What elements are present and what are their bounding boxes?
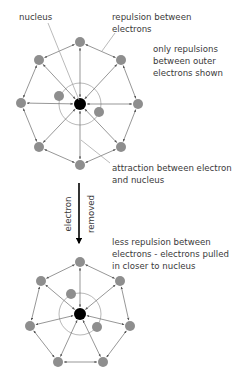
repulsion-arrow	[121, 287, 128, 320]
inner-electron	[94, 107, 104, 117]
nucleus	[74, 308, 86, 320]
outer-electron	[115, 276, 125, 286]
label-nucleus: nucleus	[19, 12, 53, 22]
repulsion-arrow	[85, 265, 114, 279]
label-less-line1: less repulsion between	[112, 237, 211, 247]
attraction-arrow	[36, 316, 73, 325]
outer-electron	[34, 55, 44, 65]
outer-electron	[16, 98, 26, 108]
label-only-line2: between outer	[153, 56, 216, 66]
diagram-after	[25, 257, 135, 367]
repulsion-arrow	[123, 110, 136, 142]
outer-electron	[34, 142, 44, 152]
outer-electron	[75, 160, 85, 170]
repulsion-arrow	[44, 149, 74, 162]
repulsion-arrow	[23, 109, 36, 142]
nucleus-leader-line	[48, 23, 79, 100]
attraction-arrow	[27, 103, 73, 104]
repulsion-leader-line	[102, 33, 115, 51]
repulsion-arrow	[46, 265, 74, 279]
repulsion-arrow	[85, 44, 115, 57]
electron-repulsion-diagram: nucleus repulsion between electrons only…	[0, 0, 242, 372]
label-less-line2: electrons - electrons pulled	[112, 249, 229, 259]
repulsion-arrow	[123, 66, 136, 99]
label-attraction-line2: and nucleus	[112, 175, 165, 185]
repulsion-arrow	[31, 287, 39, 320]
outer-electron	[125, 321, 135, 331]
label-arrow-electron: electron	[63, 196, 73, 231]
inner-electron	[66, 289, 76, 299]
outer-electron	[133, 99, 143, 109]
label-only-line3: electrons shown	[153, 68, 223, 78]
label-repulsion-line2: electrons	[112, 24, 152, 34]
attraction-arrow	[85, 64, 117, 98]
label-repulsion-line1: repulsion between	[112, 12, 191, 22]
repulsion-arrow	[85, 149, 115, 162]
label-less-line3: in closer to nucleus	[112, 261, 196, 271]
repulsion-arrow	[34, 331, 55, 358]
outer-electron	[53, 357, 63, 367]
outer-electron	[75, 257, 85, 267]
outer-electron	[98, 357, 108, 367]
diagram-before	[16, 37, 143, 170]
attraction-arrow	[85, 285, 115, 310]
outer-electron	[75, 37, 85, 47]
attraction-leader-line	[81, 140, 110, 163]
nucleus	[74, 98, 86, 110]
attraction-arrow	[87, 316, 124, 325]
inner-electron	[92, 322, 102, 332]
attraction-arrow	[43, 109, 75, 143]
outer-electron	[25, 321, 35, 331]
repulsion-arrow	[23, 66, 36, 98]
outer-electron	[36, 276, 46, 286]
label-arrow-removed: removed	[86, 195, 96, 233]
outer-electron	[116, 142, 126, 152]
label-attraction-line1: attraction between electron	[112, 163, 232, 173]
label-only-line1: only repulsions	[153, 44, 218, 54]
outer-electron	[116, 55, 126, 65]
inner-electron	[54, 91, 64, 101]
repulsion-arrow	[107, 331, 127, 357]
